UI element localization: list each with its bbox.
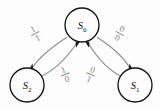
fsm-graph: S0 S2 S1 1 1 0 0 1: [0, 0, 161, 110]
edge-label-s2-to-s0: 1 0: [57, 64, 73, 86]
edge-s0-to-s1: [98, 38, 134, 72]
state-node-s2[interactable]: S2: [10, 68, 44, 102]
edge-label-s1-to-s0-output: 1: [85, 74, 93, 85]
edge-s0-to-s1-path: [98, 38, 130, 68]
edge-label-s0-to-s1: 0 0: [111, 22, 128, 44]
edge-label-s2-to-s0-output: 0: [63, 73, 71, 84]
edge-label-s0-to-s1-output: 0: [113, 32, 122, 43]
edge-s2-to-s0-path: [41, 44, 77, 77]
edge-label-s0-to-s2: 1 1: [27, 22, 44, 44]
edge-label-s0-to-s2-output: 1: [33, 32, 42, 43]
state-diagram-canvas: S0 S2 S1 1 1 0 0 1: [0, 0, 161, 110]
edge-label-s1-to-s0: 0 1: [83, 64, 99, 86]
state-node-s0[interactable]: S0: [65, 8, 99, 42]
state-node-s1[interactable]: S1: [118, 68, 152, 102]
